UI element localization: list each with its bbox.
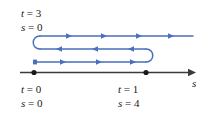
s-axis-label: s — [192, 78, 196, 89]
arrow-right-icon — [168, 33, 174, 39]
label-t1-position: s = 4 — [118, 98, 140, 109]
label-origin-position-var: s — [21, 97, 25, 109]
label-origin-time: t = 0 — [21, 84, 41, 95]
path-segment-uturn-right — [146, 49, 153, 62]
label-origin-position: s = 0 — [21, 98, 43, 109]
arrow-left-icon — [92, 46, 98, 52]
arrow-right-icon — [60, 59, 66, 65]
s-axis-arrowhead-icon — [188, 69, 196, 76]
axis-point-t0 — [31, 70, 36, 75]
label-top-time: t = 3 — [21, 8, 41, 19]
path-segment-uturn-left — [33, 36, 40, 49]
axis-point-t1 — [143, 70, 148, 75]
label-top-position-var: s — [21, 21, 25, 33]
label-t1-time-var: t — [118, 83, 121, 95]
label-t1-position-var: s — [118, 97, 122, 109]
label-origin-time-var: t — [21, 83, 24, 95]
label-origin-time-val: = 0 — [27, 83, 41, 95]
label-t1-time: t = 1 — [118, 84, 138, 95]
arrow-left-icon — [128, 46, 134, 52]
label-origin-position-val: = 0 — [28, 97, 42, 109]
path-start-marker — [33, 60, 37, 65]
arrow-right-icon — [66, 33, 72, 39]
arrow-right-icon — [101, 33, 107, 39]
arrow-left-icon — [56, 46, 62, 52]
arrow-right-icon — [136, 33, 142, 39]
label-top-time-val: = 3 — [27, 7, 41, 19]
motion-diagram-figure: t = 3 s = 0 t = 0 s = 0 t = 1 s = 4 s — [0, 0, 206, 115]
label-top-position-val: = 0 — [28, 21, 42, 33]
label-t1-time-val: = 1 — [124, 83, 138, 95]
arrow-right-icon — [96, 59, 102, 65]
label-top-position: s = 0 — [21, 22, 43, 33]
s-axis-group — [20, 69, 196, 76]
label-t1-position-val: = 4 — [125, 97, 139, 109]
label-top-time-var: t — [21, 7, 24, 19]
arrow-right-icon — [130, 59, 136, 65]
